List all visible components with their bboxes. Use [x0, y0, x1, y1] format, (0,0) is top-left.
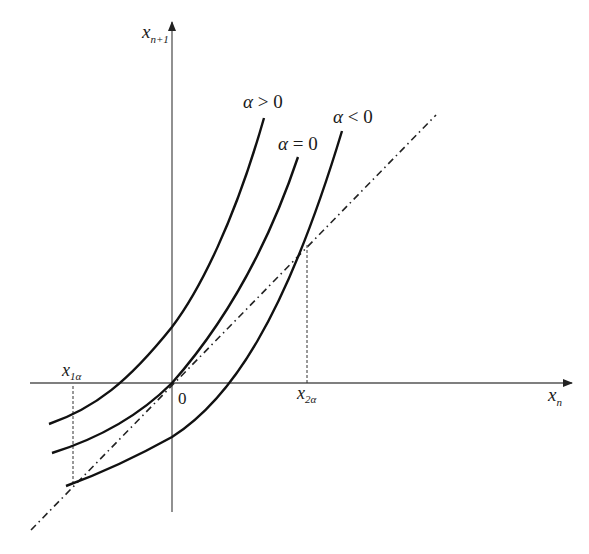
x2alpha-label: x2α — [296, 383, 317, 405]
label-alpha-negative: α < 0 — [333, 106, 373, 127]
label-alpha-positive: α > 0 — [243, 91, 283, 112]
x-axis-label: xn — [547, 384, 562, 408]
y-axis-label: xn+1 — [141, 21, 169, 45]
identity-line — [31, 115, 436, 530]
curve-alpha-zero — [52, 157, 298, 453]
diagram-canvas: xn+1 xn 0 x1α x2α α > 0 α = 0 α < 0 — [0, 0, 589, 554]
origin-label: 0 — [178, 389, 187, 408]
label-alpha-zero: α = 0 — [278, 133, 318, 154]
x1alpha-label: x1α — [61, 360, 82, 382]
curve-alpha-negative — [66, 131, 342, 486]
